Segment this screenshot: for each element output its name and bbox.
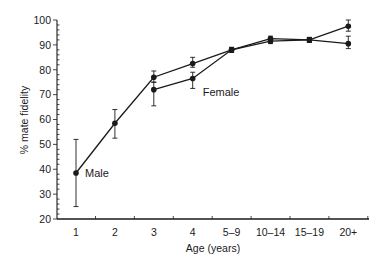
data-point	[190, 76, 196, 82]
x-tick-label: 20+	[339, 226, 357, 238]
y-tick-label: 30	[39, 188, 51, 200]
x-tick-label: 4	[190, 226, 196, 238]
y-tick-label: 20	[39, 213, 51, 225]
data-point	[151, 87, 157, 93]
y-tick-label: 60	[39, 113, 51, 125]
series-layer: MaleFemale	[73, 20, 351, 207]
y-tick-label: 40	[39, 163, 51, 175]
y-tick-label: 90	[39, 39, 51, 51]
data-point	[151, 74, 157, 80]
x-tick-label: 3	[151, 226, 157, 238]
x-tick-label: 10–14	[256, 226, 285, 238]
x-tick-label: 15–19	[295, 226, 324, 238]
x-tick-label: 1	[73, 226, 79, 238]
x-axis-title: Age (years)	[186, 242, 240, 254]
data-point	[307, 37, 313, 43]
axes	[57, 20, 369, 219]
y-axis-title: % mate fidelity	[18, 85, 30, 154]
line-chart: 2030405060708090100 12345–910–1415–1920+…	[0, 0, 388, 271]
data-point	[346, 41, 352, 47]
series-label-female: Female	[203, 86, 240, 98]
data-point	[112, 120, 118, 126]
y-tick-label: 80	[39, 64, 51, 76]
data-point	[73, 170, 79, 176]
data-point	[190, 61, 196, 67]
x-tick-label: 5–9	[223, 226, 241, 238]
y-tick-label: 70	[39, 88, 51, 100]
y-tick-label: 100	[33, 14, 51, 26]
y-tick-label: 50	[39, 138, 51, 150]
series-line	[154, 39, 348, 90]
data-point	[268, 36, 274, 42]
y-axis-ticks: 2030405060708090100	[33, 14, 59, 225]
x-tick-label: 2	[112, 226, 118, 238]
data-point	[229, 47, 235, 53]
series-male: Male	[73, 20, 351, 207]
series-line	[76, 26, 348, 173]
data-point	[346, 23, 352, 29]
series-label-male: Male	[85, 167, 109, 179]
series-female: Female	[151, 36, 351, 106]
